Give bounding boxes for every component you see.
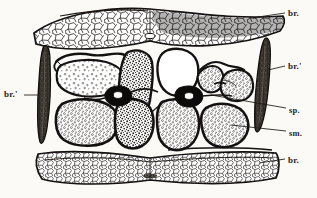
histological-drawing [0, 0, 317, 198]
label-br-prime-right: br.' [288, 62, 302, 71]
label-br-top-right: br. [288, 9, 299, 18]
label-br-prime-left: br.' [4, 90, 18, 99]
label-br-bottom-right: br. [288, 156, 299, 165]
figure-root: br. br.' sp. sm. br. br.' [0, 0, 317, 198]
label-sm: sm. [289, 129, 302, 138]
label-sp: sp. [289, 106, 300, 115]
